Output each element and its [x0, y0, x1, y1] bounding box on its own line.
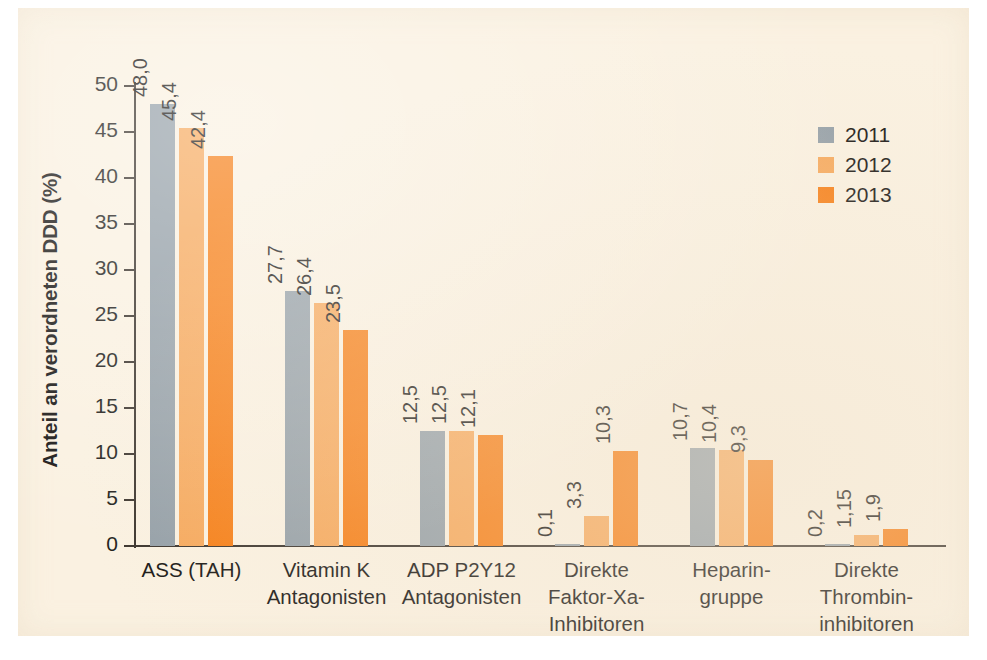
bar[interactable]: 48,0 [150, 86, 175, 546]
bar-value-label: 42,4 [187, 110, 210, 149]
bar-rect [343, 330, 368, 546]
y-axis-tick [124, 269, 135, 271]
bar[interactable]: 12,5 [420, 86, 445, 546]
bar[interactable]: 10,3 [613, 86, 638, 546]
bar-rect [555, 544, 580, 547]
x-axis-category-labels: ASS (TAH)Vitamin K AntagonistenADP P2Y12… [136, 556, 946, 648]
bar-rect [449, 431, 474, 546]
legend-swatch-icon [818, 127, 834, 143]
bar-rect [883, 529, 908, 546]
bar[interactable]: 23,5 [343, 86, 368, 546]
bar-rect [314, 303, 339, 546]
bar-value-label: 27,7 [264, 245, 287, 284]
bar-value-label: 12,5 [428, 385, 451, 424]
bar[interactable]: 3,3 [584, 86, 609, 546]
bar-value-label: 10,3 [592, 405, 615, 444]
y-axis-tick-label: 25 [60, 302, 118, 326]
bar-group: 0,13,310,3 [555, 86, 638, 546]
legend-item[interactable]: 2012 [818, 150, 958, 180]
y-axis-tick-label: 45 [60, 118, 118, 142]
legend-swatch-icon [818, 157, 834, 173]
bar-rect [719, 450, 744, 546]
y-axis-tick [124, 131, 135, 133]
bar-value-label: 48,0 [129, 58, 152, 97]
bar-group: 12,512,512,1 [420, 86, 503, 546]
bar-rect [584, 516, 609, 546]
legend-label: 2013 [845, 183, 892, 207]
y-axis-tick-label: 20 [60, 348, 118, 372]
y-axis-tick [124, 315, 135, 317]
y-axis-tick-label: 50 [60, 72, 118, 96]
bar[interactable]: 12,1 [478, 86, 503, 546]
y-axis-tick-label: 15 [60, 394, 118, 418]
bar-rect [179, 128, 204, 546]
bar-rect [690, 448, 715, 546]
bar[interactable]: 27,7 [285, 86, 310, 546]
y-axis-tick-label: 30 [60, 256, 118, 280]
y-axis-tick [124, 85, 135, 87]
y-axis-tick [124, 407, 135, 409]
bar-value-label: 1,15 [833, 489, 856, 528]
bar-value-label: 26,4 [293, 257, 316, 296]
bar[interactable]: 0,1 [555, 86, 580, 546]
bar-rect [748, 460, 773, 546]
x-axis-category-label: Direkte Thrombin- inhibitoren [772, 556, 962, 637]
bar[interactable]: 42,4 [208, 86, 233, 546]
bar[interactable]: 12,5 [449, 86, 474, 546]
bar-rect [208, 156, 233, 546]
bar-group: 48,045,442,4 [150, 86, 233, 546]
bar-value-label: 9,3 [727, 426, 750, 454]
bar-value-label: 23,5 [322, 284, 345, 323]
bar-rect [420, 431, 445, 546]
bar-value-label: 1,9 [862, 494, 885, 522]
bar-value-label: 0,2 [804, 509, 827, 537]
bar-value-label: 10,4 [698, 404, 721, 443]
legend-swatch-icon [818, 187, 834, 203]
legend-item[interactable]: 2013 [818, 180, 958, 210]
bar-rect [285, 291, 310, 546]
y-axis-tick-label: 40 [60, 164, 118, 188]
legend-label: 2011 [845, 123, 890, 147]
bar-rect [150, 104, 175, 546]
bar-group: 10,710,49,3 [690, 86, 773, 546]
legend: 201120122013 [818, 120, 958, 210]
figure: Anteil an verordneten DDD (%) 0510152025… [0, 0, 987, 660]
bar-value-label: 12,1 [457, 389, 480, 428]
y-axis-tick [124, 453, 135, 455]
chart-panel: Anteil an verordneten DDD (%) 0510152025… [18, 8, 969, 636]
y-axis-tick [124, 361, 135, 363]
bar-value-label: 12,5 [399, 385, 422, 424]
bar-rect [825, 544, 850, 547]
y-axis-tick-label: 0 [60, 532, 118, 556]
bar[interactable]: 45,4 [179, 86, 204, 546]
bar[interactable]: 10,7 [690, 86, 715, 546]
bar-value-label: 10,7 [669, 402, 692, 441]
bar-value-label: 45,4 [158, 82, 181, 121]
bar[interactable]: 9,3 [748, 86, 773, 546]
y-axis-tick-label: 10 [60, 440, 118, 464]
y-axis-tick-label: 5 [60, 486, 118, 510]
y-axis-tick [124, 545, 135, 547]
y-axis-tick [124, 223, 135, 225]
y-axis-tick [124, 499, 135, 501]
legend-label: 2012 [845, 153, 892, 177]
bar-rect [613, 451, 638, 546]
bar-value-label: 3,3 [563, 481, 586, 509]
y-axis-tick-label: 35 [60, 210, 118, 234]
bar[interactable]: 10,4 [719, 86, 744, 546]
y-axis-tick [124, 177, 135, 179]
bar-value-label: 0,1 [534, 509, 557, 537]
legend-item[interactable]: 2011 [818, 120, 958, 150]
bar-rect [478, 435, 503, 546]
bar-group: 27,726,423,5 [285, 86, 368, 546]
bar-rect [854, 535, 879, 546]
